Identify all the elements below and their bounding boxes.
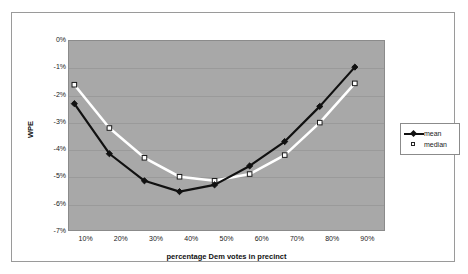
legend-median-marker-icon xyxy=(404,140,424,150)
data-point xyxy=(142,156,147,161)
data-point xyxy=(353,81,358,86)
data-point xyxy=(176,189,182,195)
legend-item-mean: mean xyxy=(404,128,456,139)
legend-mean-marker-icon xyxy=(404,129,424,139)
data-point xyxy=(247,172,252,177)
series-mean xyxy=(71,64,358,195)
data-point xyxy=(317,120,322,125)
data-point xyxy=(107,126,112,131)
series-layer xyxy=(12,13,454,261)
legend-label-median: median xyxy=(424,141,447,148)
chart-legend: mean median xyxy=(400,123,460,155)
data-point xyxy=(177,174,182,179)
chart-frame: 0%-1%-2%-3%-4%-5%-6%-7% 10%20%30%40%50%6… xyxy=(11,12,455,262)
series-median xyxy=(72,81,357,183)
data-point xyxy=(72,82,77,87)
legend-label-mean: mean xyxy=(424,130,442,137)
legend-item-median: median xyxy=(404,139,456,150)
chart-figure: 0%-1%-2%-3%-4%-5%-6%-7% 10%20%30%40%50%6… xyxy=(0,0,468,274)
data-point xyxy=(282,153,287,158)
